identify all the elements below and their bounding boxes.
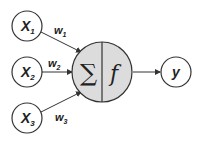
weight-label-w3: w3 [55,111,68,125]
input-node-x3: X3 [12,103,42,133]
weight-label-w1: w1 [54,24,67,38]
input-node-x2: X2 [12,57,42,87]
sum-symbol: ∑ [80,59,97,87]
svg-text:y: y [171,64,181,80]
weight-label-w2: w2 [48,57,61,71]
input-node-x1: X1 [12,11,42,41]
output-node-y: y [161,57,191,87]
perceptron-diagram: X1 X2 X3 w1 w2 w3 ∑ f y [0,0,199,142]
neuron-node: ∑ f [72,42,132,102]
edge-x3-neuron [41,92,81,112]
